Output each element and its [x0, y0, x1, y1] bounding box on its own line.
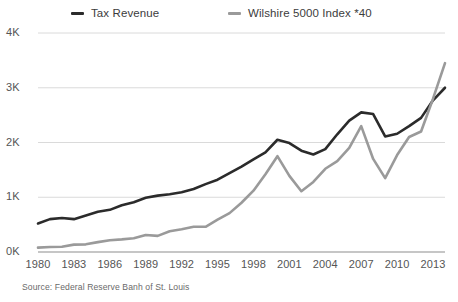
series-line-wilshire-5000-index: [38, 63, 445, 248]
x-tick-label: 2001: [269, 258, 309, 270]
x-tick-label: 2010: [377, 258, 417, 270]
x-tick-label: 1998: [233, 258, 273, 270]
chart-container: Tax Revenue Wilshire 5000 Index *40 4K3K…: [0, 0, 458, 302]
y-tick-label: 4K: [6, 26, 32, 38]
x-tick-label: 1983: [54, 258, 94, 270]
chart-svg: [0, 0, 458, 302]
x-tick-label: 1995: [198, 258, 238, 270]
y-tick-label: 1K: [6, 190, 32, 202]
y-tick-label: 2K: [6, 136, 32, 148]
x-tick-label: 1986: [90, 258, 130, 270]
plot-area: [0, 0, 458, 302]
x-tick-label: 2004: [305, 258, 345, 270]
x-tick-label: 1992: [162, 258, 202, 270]
x-tick-label: 2013: [413, 258, 453, 270]
gridlines: [38, 33, 445, 252]
y-tick-label: 3K: [6, 81, 32, 93]
source-note: Source: Federal Reserve Banh of St. Loui…: [22, 282, 189, 292]
x-tick-label: 1989: [126, 258, 166, 270]
x-tick-label: 1980: [18, 258, 58, 270]
y-tick-label: 0K: [6, 245, 32, 257]
x-tick-label: 2007: [341, 258, 381, 270]
series-lines: [38, 63, 445, 248]
